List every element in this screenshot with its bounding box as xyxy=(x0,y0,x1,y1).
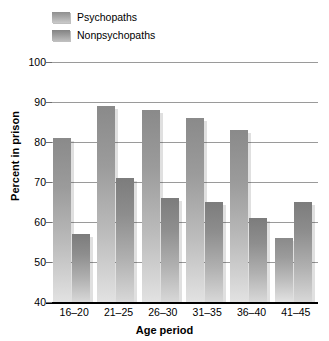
bar-nonpsychopaths-36–40[interactable] xyxy=(249,218,267,302)
bar-group xyxy=(141,62,185,302)
bar-psychopaths-21–25[interactable] xyxy=(97,106,115,302)
bar-psychopaths-16–20[interactable] xyxy=(53,138,71,302)
legend-swatch-psychopaths xyxy=(52,12,70,23)
bar-group xyxy=(274,62,318,302)
bar-group xyxy=(229,62,273,302)
bar-shadow xyxy=(179,201,182,302)
bar-psychopaths-31–35[interactable] xyxy=(186,118,204,302)
bar-nonpsychopaths-16–20[interactable] xyxy=(72,234,90,302)
x-axis-tick-label: 31–35 xyxy=(185,307,229,318)
x-axis-tick-label: 21–25 xyxy=(97,307,141,318)
legend-item-nonpsychopaths: Nonpsychopaths xyxy=(52,27,242,43)
bar-shadow xyxy=(134,181,137,302)
bar-shadow xyxy=(223,205,226,302)
y-axis-tick-label: 80 xyxy=(20,137,46,147)
bar-shadow xyxy=(267,221,270,302)
bar-nonpsychopaths-31–35[interactable] xyxy=(205,202,223,302)
y-axis-tick-label: 50 xyxy=(20,257,46,267)
x-axis-tick-label: 41–45 xyxy=(274,307,318,318)
legend-item-psychopaths: Psychopaths xyxy=(52,9,242,25)
bar-psychopaths-41–45[interactable] xyxy=(275,238,293,302)
x-axis-tick-label: 36–40 xyxy=(230,307,274,318)
x-axis-title: Age period xyxy=(0,324,329,336)
plot-area xyxy=(52,62,318,302)
bar-group xyxy=(96,62,140,302)
legend-label-nonpsychopaths: Nonpsychopaths xyxy=(77,30,155,41)
y-axis-tick-label: 70 xyxy=(20,177,46,187)
legend-swatch-nonpsychopaths xyxy=(52,30,70,41)
legend-label-psychopaths: Psychopaths xyxy=(77,12,137,23)
y-axis-tick-label: 100 xyxy=(20,57,46,67)
y-axis-tick-label: 90 xyxy=(20,97,46,107)
y-axis-title: Percent in prison xyxy=(9,86,21,226)
bar-psychopaths-26–30[interactable] xyxy=(142,110,160,302)
y-axis-tick-label: 60 xyxy=(20,217,46,227)
x-axis-line xyxy=(46,302,318,304)
bar-shadow xyxy=(312,205,315,302)
bar-group xyxy=(52,62,96,302)
y-axis-tick-label: 40 xyxy=(20,297,46,307)
bar-nonpsychopaths-26–30[interactable] xyxy=(161,198,179,302)
bar-nonpsychopaths-21–25[interactable] xyxy=(116,178,134,302)
bar-chart-figure: Psychopaths Nonpsychopaths 4050607080901… xyxy=(0,0,329,341)
bar-psychopaths-36–40[interactable] xyxy=(230,130,248,302)
bar-shadow xyxy=(90,237,93,302)
y-axis-tick xyxy=(46,302,52,303)
bar-nonpsychopaths-41–45[interactable] xyxy=(294,202,312,302)
chart-legend: Psychopaths Nonpsychopaths xyxy=(52,9,242,45)
x-axis-tick-label: 16–20 xyxy=(52,307,96,318)
bar-group xyxy=(185,62,229,302)
x-axis-tick-label: 26–30 xyxy=(141,307,185,318)
